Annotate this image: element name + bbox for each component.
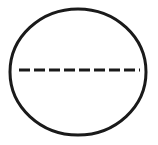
circle-outline bbox=[10, 9, 146, 135]
figure-canvas bbox=[0, 0, 158, 145]
circle-diagram-svg bbox=[0, 0, 158, 145]
